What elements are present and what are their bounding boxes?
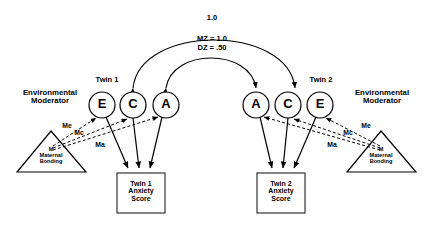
node-label-c2: C	[278, 97, 298, 111]
twin2-header: Twin 2	[296, 76, 346, 84]
path-label-me2: Me	[357, 122, 375, 129]
path-c1-to-outcome	[133, 118, 139, 168]
moderator-label-twin2: M Maternal Bonding	[355, 147, 407, 165]
node-label-a1: A	[156, 97, 176, 111]
arc-label-mz: MZ = 1.0	[182, 35, 242, 43]
path-a2-to-outcome	[260, 117, 272, 168]
arc-a-correlation	[166, 58, 256, 88]
node-label-a2: A	[246, 97, 266, 111]
arc-label-dz: DZ = .50	[182, 44, 242, 52]
path-e2-to-outcome	[294, 117, 316, 168]
node-label-c1: C	[123, 97, 143, 111]
path-c2-to-outcome	[283, 118, 288, 168]
path-label-ma2: Ma	[323, 141, 341, 148]
path-label-ma1: Ma	[91, 141, 109, 148]
moderator-label-twin1: M Maternal Bonding	[25, 147, 77, 165]
path-a1-to-outcome	[150, 117, 162, 168]
moderator-header-twin1: Environmental Moderator	[4, 89, 96, 105]
path-diagram: 1.0 MZ = 1.0 DZ = .50 Twin 1 Twin 2 E C …	[0, 0, 431, 230]
node-label-e2: E	[310, 97, 330, 111]
outcome-label-twin1: Twin 1 Anxiety Score	[117, 180, 165, 202]
moderator-header-twin2: Environmental Moderator	[336, 89, 428, 105]
path-label-mc2: Mc	[339, 129, 357, 136]
outcome-label-twin2: Twin 2 Anxiety Score	[257, 180, 305, 202]
path-e1-to-outcome	[106, 117, 128, 168]
arc-label-c: 1.0	[182, 14, 242, 22]
path-label-mc1: Mc	[70, 129, 88, 136]
twin1-header: Twin 1	[82, 76, 132, 84]
